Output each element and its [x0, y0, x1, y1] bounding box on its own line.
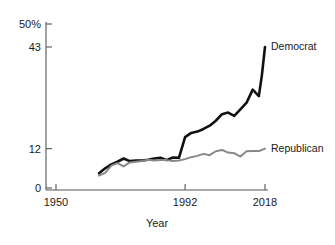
x-axis-title: Year [146, 217, 169, 229]
chart-container: 0124350% 195019922018 DemocratRepublican… [0, 0, 335, 245]
x-tick-label: 2018 [253, 196, 277, 208]
x-tick-label: 1950 [44, 196, 68, 208]
chart-background [0, 0, 335, 245]
y-tick-label: 43 [29, 41, 41, 53]
y-tick-label: 50% [19, 18, 41, 30]
y-tick-label: 0 [35, 182, 41, 194]
series-label-democrat: Democrat [271, 40, 317, 52]
series-label-republican: Republican [271, 142, 324, 154]
y-tick-label: 12 [29, 143, 41, 155]
x-tick-label: 1992 [173, 196, 197, 208]
line-chart: 0124350% 195019922018 DemocratRepublican… [0, 0, 335, 245]
